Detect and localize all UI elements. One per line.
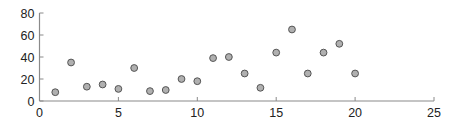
data-point [194, 78, 201, 85]
data-point [178, 76, 185, 83]
data-point [241, 70, 248, 77]
data-point [83, 83, 90, 90]
y-tick-label: 80 [21, 7, 35, 21]
x-tick-label: 0 [36, 106, 43, 120]
y-tick-label: 0 [28, 95, 35, 109]
data-point [273, 49, 280, 56]
data-point [162, 87, 169, 94]
x-tick-label: 20 [348, 106, 362, 120]
y-tick-label: 60 [21, 29, 35, 43]
axes [40, 13, 435, 101]
data-point [210, 55, 217, 62]
data-point [304, 70, 311, 77]
data-point [289, 26, 296, 33]
data-point [336, 40, 343, 47]
data-point [68, 59, 75, 66]
x-tick-label: 15 [269, 106, 283, 120]
x-tick-label: 25 [427, 106, 441, 120]
data-point [131, 65, 138, 72]
data-point [257, 84, 264, 91]
data-point [115, 86, 122, 93]
x-tick-label: 5 [115, 106, 122, 120]
scatter-chart: 0510152025 020406080 [0, 0, 456, 131]
data-point [147, 88, 154, 95]
x-tick-label: 10 [190, 106, 204, 120]
data-point [352, 70, 359, 77]
y-tick-label: 20 [21, 73, 35, 87]
data-point [320, 49, 327, 56]
data-point [52, 89, 59, 96]
data-point [99, 81, 106, 88]
y-tick-label: 40 [21, 51, 35, 65]
data-point [225, 54, 232, 61]
data-points [52, 26, 359, 96]
